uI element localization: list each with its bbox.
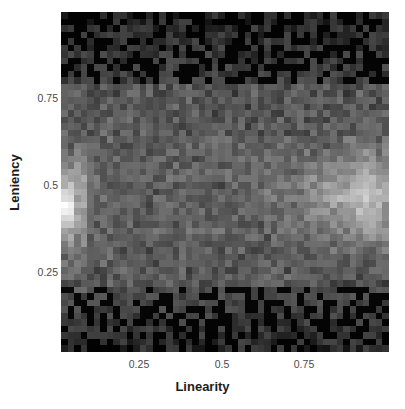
x-tick-label-05: 0.5 bbox=[215, 358, 230, 370]
y-tick-label-025: 0.25 bbox=[38, 266, 58, 278]
x-axis-title: Linearity bbox=[0, 379, 405, 394]
heatmap-image bbox=[61, 12, 389, 352]
y-tick-label-075: 0.75 bbox=[38, 92, 58, 104]
x-tick-label-075: 0.75 bbox=[294, 358, 314, 370]
y-axis-title: Leniency bbox=[4, 0, 24, 364]
y-axis-title-text: Leniency bbox=[7, 154, 22, 210]
heatmap-plot-area bbox=[61, 12, 389, 352]
heatmap-figure: 0.75 0.5 0.25 0.25 0.5 0.75 Linearity Le… bbox=[0, 0, 405, 409]
x-tick-label-025: 0.25 bbox=[129, 358, 149, 370]
y-tick-label-05: 0.5 bbox=[43, 179, 58, 191]
